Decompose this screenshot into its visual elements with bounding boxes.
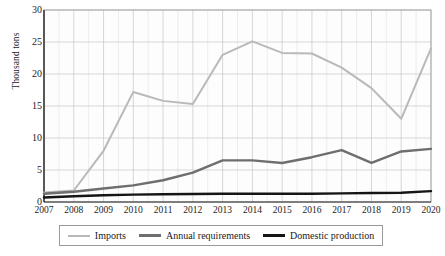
x-axis-tick-label: 2014 bbox=[236, 206, 268, 216]
x-axis-tick-label: 2015 bbox=[266, 206, 298, 216]
legend-color-swatch bbox=[139, 234, 161, 237]
x-axis-tick-label: 2011 bbox=[147, 206, 179, 216]
x-axis-tick-label: 2010 bbox=[117, 206, 149, 216]
x-axis-tick-label: 2009 bbox=[88, 206, 120, 216]
legend-item[interactable]: Imports bbox=[68, 230, 126, 241]
legend-item-label: Annual requirements bbox=[166, 230, 250, 241]
x-axis-tick-label: 2007 bbox=[28, 206, 60, 216]
legend-item-label: Domestic production bbox=[290, 230, 374, 241]
legend-item[interactable]: Domestic production bbox=[263, 230, 374, 241]
figure-caption-fragment bbox=[62, 247, 382, 256]
x-axis-tick-label: 2008 bbox=[58, 206, 90, 216]
legend-color-swatch bbox=[68, 235, 90, 237]
legend-item-label: Imports bbox=[95, 230, 126, 241]
chart-legend: ImportsAnnual requirementsDomestic produ… bbox=[59, 225, 383, 246]
legend-item[interactable]: Annual requirements bbox=[139, 230, 250, 241]
x-axis-tick-label: 2012 bbox=[177, 206, 209, 216]
plot-area bbox=[0, 0, 440, 215]
legend-color-swatch bbox=[263, 234, 285, 237]
x-axis-tick-label: 2020 bbox=[415, 206, 445, 216]
x-axis-tick-label: 2019 bbox=[385, 206, 417, 216]
x-axis-tick-label: 2013 bbox=[207, 206, 239, 216]
x-axis-tick-label: 2016 bbox=[296, 206, 328, 216]
x-axis-tick-label: 2018 bbox=[355, 206, 387, 216]
x-axis-tick-label: 2017 bbox=[326, 206, 358, 216]
